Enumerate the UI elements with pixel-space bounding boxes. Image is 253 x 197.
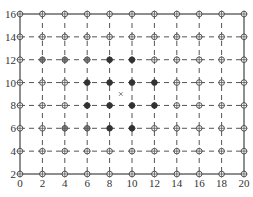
x-tick-label: 16 <box>194 177 206 189</box>
node-marker-active <box>129 102 136 109</box>
x-tick-label: 2 <box>40 177 46 189</box>
node-marker-hollow <box>218 125 225 132</box>
node-marker-hollow <box>129 11 136 18</box>
x-tick-label: 18 <box>216 177 228 189</box>
node-marker-hollow <box>151 148 158 155</box>
node-marker-hollow <box>151 11 158 18</box>
node-marker-hollow <box>196 148 203 155</box>
node-marker-hollow <box>84 148 91 155</box>
node-marker-active <box>106 56 113 63</box>
node-marker-hollow <box>173 56 180 63</box>
y-tick-label: 4 <box>11 145 17 157</box>
node-marker-hollow <box>129 33 136 40</box>
node-marker-hollow <box>241 56 248 63</box>
node-marker-hollow <box>241 79 248 86</box>
node-marker-partial <box>84 56 91 63</box>
node-marker-hollow <box>241 33 248 40</box>
node-marker-hollow <box>241 102 248 109</box>
y-tick-label: 16 <box>5 8 17 20</box>
node-marker-hollow <box>61 79 68 86</box>
x-axis-ticks: 02468101214161820 <box>17 177 250 189</box>
node-marker-hollow <box>241 11 248 18</box>
node-marker-hollow <box>196 79 203 86</box>
node-marker-hollow <box>173 125 180 132</box>
node-marker-hollow <box>61 102 68 109</box>
sensor-grid-chart: 02468101214161820 246810121416 <box>0 0 253 197</box>
node-marker-active <box>129 56 136 63</box>
node-marker-hollow <box>173 33 180 40</box>
node-marker-hollow <box>61 11 68 18</box>
node-marker-hollow <box>84 33 91 40</box>
y-axis-ticks: 246810121416 <box>5 8 17 180</box>
node-marker-hollow <box>173 11 180 18</box>
node-marker-hollow <box>173 79 180 86</box>
node-marker-hollow <box>151 125 158 132</box>
node-marker-active <box>106 125 113 132</box>
node-marker-partial <box>61 56 68 63</box>
node-marker-active <box>151 79 158 86</box>
node-marker-hollow <box>151 56 158 63</box>
node-marker-hollow <box>218 56 225 63</box>
x-tick-label: 12 <box>149 177 160 189</box>
node-marker-active <box>106 102 113 109</box>
node-markers <box>17 11 248 178</box>
node-marker-hollow <box>196 56 203 63</box>
node-marker-hollow <box>17 56 24 63</box>
node-marker-hollow <box>17 148 24 155</box>
node-marker-active <box>84 102 91 109</box>
x-tick-label: 0 <box>17 177 23 189</box>
node-marker-hollow <box>196 11 203 18</box>
node-marker-hollow <box>17 125 24 132</box>
y-tick-label: 14 <box>5 31 17 43</box>
node-marker-hollow <box>39 102 46 109</box>
y-tick-label: 12 <box>5 54 16 66</box>
y-tick-label: 6 <box>11 122 17 134</box>
x-tick-label: 4 <box>62 177 68 189</box>
node-marker-partial <box>39 56 46 63</box>
node-marker-active <box>106 79 113 86</box>
node-marker-hollow <box>241 148 248 155</box>
node-marker-hollow <box>39 79 46 86</box>
node-marker-hollow <box>196 102 203 109</box>
node-marker-hollow <box>61 33 68 40</box>
node-marker-hollow <box>196 125 203 132</box>
node-marker-hollow <box>106 33 113 40</box>
node-marker-hollow <box>218 11 225 18</box>
x-tick-label: 20 <box>239 177 251 189</box>
node-marker-hollow <box>129 148 136 155</box>
x-tick-label: 10 <box>127 177 139 189</box>
node-marker-hollow <box>84 11 91 18</box>
node-marker-hollow <box>218 33 225 40</box>
node-marker-partial <box>61 125 68 132</box>
node-marker-hollow <box>218 79 225 86</box>
node-marker-hollow <box>106 11 113 18</box>
node-marker-active <box>84 79 91 86</box>
node-marker-partial <box>84 125 91 132</box>
node-marker-hollow <box>173 102 180 109</box>
node-marker-hollow <box>17 79 24 86</box>
node-marker-hollow <box>61 148 68 155</box>
node-marker-hollow <box>39 33 46 40</box>
x-tick-label: 14 <box>171 177 183 189</box>
node-marker-hollow <box>39 148 46 155</box>
node-marker-hollow <box>39 125 46 132</box>
y-tick-label: 2 <box>11 168 17 180</box>
node-marker-hollow <box>241 125 248 132</box>
node-marker-hollow <box>218 102 225 109</box>
node-marker-hollow <box>106 148 113 155</box>
node-marker-active <box>129 79 136 86</box>
node-marker-hollow <box>218 148 225 155</box>
node-marker-active <box>151 102 158 109</box>
node-marker-hollow <box>39 11 46 18</box>
node-marker-hollow <box>17 102 24 109</box>
node-marker-hollow <box>17 11 24 18</box>
node-marker-hollow <box>173 148 180 155</box>
y-tick-label: 8 <box>11 99 17 111</box>
x-tick-label: 8 <box>107 177 113 189</box>
y-tick-label: 10 <box>5 77 17 89</box>
node-marker-hollow <box>17 33 24 40</box>
node-marker-hollow <box>196 33 203 40</box>
target-x-icon <box>119 92 123 96</box>
x-tick-label: 6 <box>84 177 90 189</box>
node-marker-hollow <box>151 33 158 40</box>
